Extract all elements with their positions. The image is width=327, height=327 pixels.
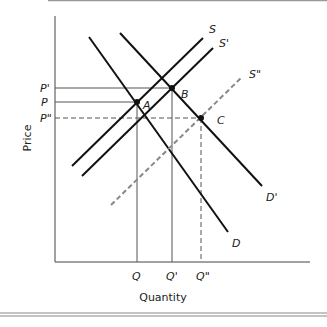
point-b-marker bbox=[169, 85, 175, 91]
label-p-prime: P' bbox=[40, 82, 50, 95]
label-s-double: S" bbox=[249, 68, 261, 81]
label-point-c: C bbox=[217, 114, 225, 127]
point-c-marker bbox=[198, 115, 204, 121]
label-point-a: A bbox=[142, 99, 151, 112]
supply-demand-diagram: S S' S" D D' A B C P' P P" Q Q' Q" Quant… bbox=[0, 0, 327, 327]
label-q-prime: Q' bbox=[166, 270, 178, 283]
demand-curve-d bbox=[89, 37, 228, 232]
label-q: Q bbox=[132, 270, 141, 283]
label-p-double: P" bbox=[40, 112, 52, 125]
label-s: S bbox=[209, 23, 216, 36]
label-p: P bbox=[41, 96, 48, 109]
label-d-prime: D' bbox=[266, 191, 278, 204]
x-axis-title: Quantity bbox=[139, 291, 187, 304]
label-point-b: B bbox=[181, 88, 189, 101]
label-d: D bbox=[232, 237, 240, 250]
point-a-marker bbox=[134, 99, 140, 105]
label-q-double: Q" bbox=[196, 270, 210, 283]
label-s-prime: S' bbox=[219, 37, 229, 50]
y-axis-title: Price bbox=[21, 124, 34, 151]
